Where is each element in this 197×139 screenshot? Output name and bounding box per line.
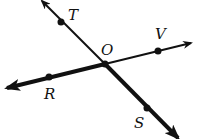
label-R: R	[43, 85, 55, 103]
point-V	[155, 48, 162, 55]
point-O	[102, 61, 109, 68]
label-S: S	[134, 114, 144, 132]
point-S	[144, 105, 151, 112]
intersecting-lines-diagram: O TVRS	[0, 0, 197, 139]
label-O: O	[101, 41, 113, 59]
point-R	[46, 74, 53, 81]
ray-OR	[7, 64, 105, 88]
ray-OV	[105, 43, 191, 64]
point-T	[58, 19, 65, 26]
label-T: T	[68, 6, 79, 24]
label-V: V	[155, 25, 168, 43]
